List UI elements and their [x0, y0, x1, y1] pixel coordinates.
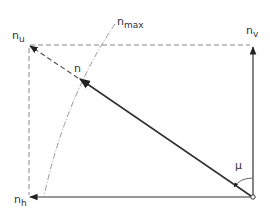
label-n-h-base: n	[14, 193, 21, 206]
label-n-max-sub: max	[124, 20, 144, 30]
vector-n-dashed-extension	[30, 46, 78, 78]
origin-point	[251, 195, 255, 199]
vector-n-solid	[80, 79, 251, 196]
n-max-arc	[44, 24, 115, 196]
label-n-u: nu	[12, 30, 25, 44]
label-n-u-base: n	[12, 29, 19, 42]
label-n-v-sub: v	[253, 29, 258, 39]
label-n-h-sub: h	[21, 198, 27, 208]
label-n-max-base: n	[117, 15, 124, 28]
label-n-v-base: n	[246, 24, 253, 37]
label-n-v: nv	[246, 25, 258, 39]
label-n-base: n	[74, 62, 81, 75]
label-n-u-sub: u	[19, 34, 25, 44]
label-mu: μ	[235, 160, 242, 171]
label-mu-base: μ	[235, 159, 242, 172]
vector-diagram	[0, 0, 270, 216]
label-n-max: nmax	[117, 16, 144, 30]
label-n: n	[74, 63, 81, 74]
label-n-h: nh	[14, 194, 27, 208]
